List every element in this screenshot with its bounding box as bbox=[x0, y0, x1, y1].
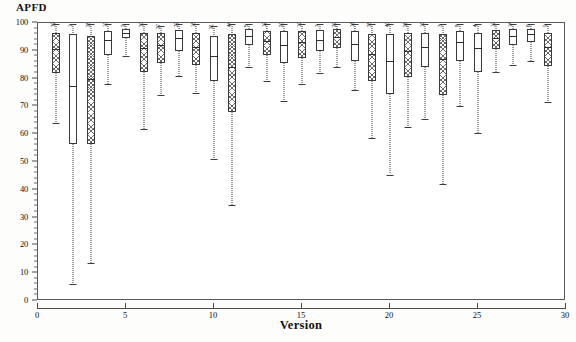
y-tick-label: 30 bbox=[20, 212, 28, 221]
whisker-lower bbox=[284, 63, 285, 101]
whisker-lower bbox=[460, 61, 461, 107]
whisker-lower bbox=[55, 73, 56, 123]
box-label: 11 bbox=[420, 23, 425, 28]
whisker-cap-lower bbox=[281, 101, 288, 102]
whisker-cap-lower bbox=[175, 76, 182, 77]
box-iqr bbox=[404, 33, 412, 77]
boxplot-17: 29 bbox=[330, 23, 344, 299]
boxplot-8: 22 bbox=[172, 23, 186, 299]
median-line bbox=[386, 61, 394, 62]
whisker-lower bbox=[108, 55, 109, 84]
whisker-cap-lower bbox=[457, 106, 464, 107]
y-tick-label: 100 bbox=[16, 18, 28, 27]
boxplot-4: 13 bbox=[101, 23, 115, 299]
whisker-cap-lower bbox=[193, 93, 200, 94]
box-label: 14 bbox=[508, 22, 513, 27]
box-iqr bbox=[175, 30, 183, 51]
whisker-lower bbox=[513, 45, 514, 64]
box-iqr bbox=[157, 33, 165, 64]
box-iqr bbox=[527, 29, 535, 43]
boxplot-21: 26 bbox=[401, 23, 415, 299]
whisker-cap-lower bbox=[299, 84, 306, 85]
whisker-lower bbox=[73, 144, 74, 284]
box-iqr bbox=[351, 31, 359, 60]
box-label: 19 bbox=[297, 22, 302, 27]
whisker-cap-lower bbox=[211, 159, 218, 160]
median-line bbox=[175, 38, 183, 39]
boxplot-7: 27 bbox=[154, 23, 168, 299]
median-line bbox=[280, 45, 288, 46]
box-iqr bbox=[245, 29, 253, 46]
median-line bbox=[492, 38, 500, 39]
boxplot-23: 3 bbox=[436, 23, 450, 299]
boxplot-2: 1 bbox=[66, 23, 80, 299]
boxplot-16: 7 bbox=[313, 23, 327, 299]
median-line bbox=[140, 48, 148, 49]
whisker-lower bbox=[214, 81, 215, 159]
median-line bbox=[69, 86, 77, 87]
box-label: 26 bbox=[403, 22, 408, 27]
whisker-lower bbox=[319, 51, 320, 73]
box-iqr bbox=[492, 30, 500, 49]
whisker-cap-lower bbox=[439, 184, 446, 185]
median-line bbox=[210, 56, 218, 57]
whisker-cap-lower bbox=[246, 67, 253, 68]
whisker-lower bbox=[249, 45, 250, 67]
boxplot-6: 30 bbox=[137, 23, 151, 299]
whisker-cap-lower bbox=[351, 90, 358, 91]
x-tick-mark bbox=[37, 303, 38, 309]
y-axis-title: APFD bbox=[16, 1, 47, 13]
whisker-lower bbox=[425, 67, 426, 118]
x-tick-mark bbox=[125, 303, 126, 309]
y-tick-label: 20 bbox=[20, 240, 28, 249]
box-label: 40 bbox=[385, 22, 390, 27]
box-iqr bbox=[474, 33, 482, 72]
median-line bbox=[157, 45, 165, 46]
y-tick-label: 70 bbox=[20, 101, 28, 110]
box-iqr bbox=[456, 31, 464, 60]
whisker-upper bbox=[460, 24, 461, 31]
box-iqr bbox=[104, 31, 112, 55]
x-axis-title: Version bbox=[37, 318, 565, 333]
whisker-cap-lower bbox=[510, 65, 517, 66]
box-label: 27 bbox=[156, 24, 161, 29]
box-label: 23 bbox=[279, 22, 284, 27]
whisker-cap-lower bbox=[422, 119, 429, 120]
whisker-lower bbox=[495, 49, 496, 71]
median-line bbox=[316, 40, 324, 41]
whisker-cap-lower bbox=[404, 127, 411, 128]
median-line bbox=[544, 47, 552, 48]
whisker-cap-lower bbox=[263, 81, 270, 82]
median-line bbox=[228, 67, 236, 68]
whisker-lower bbox=[478, 72, 479, 133]
median-line bbox=[439, 59, 447, 60]
x-tick-mark bbox=[213, 303, 214, 309]
median-line bbox=[104, 40, 112, 41]
boxplot-3: 25 bbox=[84, 23, 98, 299]
whisker-lower bbox=[126, 38, 127, 56]
whisker-lower bbox=[407, 77, 408, 127]
box-iqr bbox=[298, 31, 306, 57]
box-iqr bbox=[544, 33, 552, 66]
whisker-cap-lower bbox=[316, 73, 323, 74]
boxplot-10: 21 bbox=[207, 23, 221, 299]
box-label: 12 bbox=[262, 22, 267, 27]
box-label: 25 bbox=[86, 22, 91, 27]
y-tick-label: 50 bbox=[20, 157, 28, 166]
y-tick-label: 10 bbox=[20, 268, 28, 277]
median-line bbox=[351, 44, 359, 45]
boxplot-29: 9 bbox=[541, 23, 555, 299]
y-tick-label: 0 bbox=[24, 296, 28, 305]
boxplot-26: 17 bbox=[489, 23, 503, 299]
box-label: 30 bbox=[139, 22, 144, 27]
boxplot-25: 4 bbox=[471, 23, 485, 299]
box-iqr bbox=[228, 34, 236, 112]
box-iqr bbox=[368, 34, 376, 81]
y-tick-label: 90 bbox=[20, 46, 28, 55]
box-label: 29 bbox=[332, 22, 337, 27]
boxplot-22: 11 bbox=[418, 23, 432, 299]
boxplot-figure: APFD 0102030405060708090100 321251323027… bbox=[0, 0, 576, 342]
median-line bbox=[298, 42, 306, 43]
median-line bbox=[527, 34, 535, 35]
median-line bbox=[509, 36, 517, 37]
